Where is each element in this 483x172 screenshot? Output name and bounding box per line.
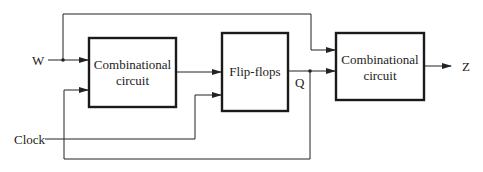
combinational-circuit-2: Combinational circuit xyxy=(336,33,424,100)
clock-input-label: Clock xyxy=(14,132,46,147)
comb1-label-line2: circuit xyxy=(116,73,150,88)
z-output-label: Z xyxy=(462,59,470,74)
comb1-label-line1: Combinational xyxy=(94,57,172,72)
flip-flops-block: Flip-flops xyxy=(222,33,288,111)
ff-label: Flip-flops xyxy=(229,64,280,79)
circuit-diagram: Combinational circuit Flip-flops Combina… xyxy=(0,0,483,172)
comb2-label-line2: circuit xyxy=(363,68,397,83)
w-input-label: W xyxy=(32,53,45,68)
combinational-circuit-1: Combinational circuit xyxy=(89,38,176,107)
q-label: Q xyxy=(295,75,305,90)
q-junction-dot xyxy=(308,69,312,73)
comb2-label-line1: Combinational xyxy=(341,52,419,67)
